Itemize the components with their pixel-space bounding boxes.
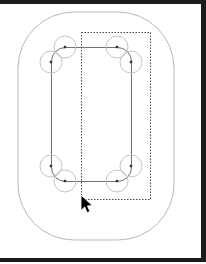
handle-bottom-left-upper-node[interactable] bbox=[50, 165, 52, 167]
selected-rounded-rect-path[interactable] bbox=[52, 48, 132, 182]
handle-bottom-right-lower-node[interactable] bbox=[116, 180, 118, 182]
window-border-right bbox=[201, 0, 206, 259]
vector-scene[interactable] bbox=[0, 4, 201, 257]
handle-top-left-lower-node[interactable] bbox=[50, 61, 52, 63]
app-window bbox=[0, 0, 206, 264]
handle-bottom-left-lower-node[interactable] bbox=[64, 180, 66, 182]
handle-top-right-upper-node[interactable] bbox=[116, 46, 118, 48]
handle-top-right-lower-node[interactable] bbox=[130, 61, 132, 63]
handle-bottom-right-upper-node[interactable] bbox=[130, 165, 132, 167]
window-border-gutter bbox=[0, 0, 206, 2]
window-border-bottom bbox=[0, 258, 206, 262]
drawing-canvas[interactable] bbox=[0, 4, 201, 257]
handle-top-left-upper-node[interactable] bbox=[64, 46, 66, 48]
